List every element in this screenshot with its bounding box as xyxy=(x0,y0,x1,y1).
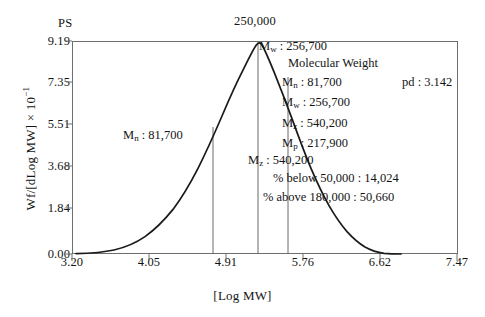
stats-mz-value: : 540,200 xyxy=(297,116,347,130)
annotation-mw-inplot: Mw : 256,700 xyxy=(259,39,327,54)
stats-mz2-subscript: z xyxy=(259,158,263,168)
annotation-mw-symbol: M xyxy=(259,39,270,53)
stats-mw-value: : 256,700 xyxy=(300,95,350,109)
stats-percent-above: % above 180,000 : 50,660 xyxy=(252,189,462,205)
molecular-weight-distribution-chart: PS 250,000 Wf/[dLog MW] × 10−1 9.19 7.35… xyxy=(0,0,485,317)
annotation-mn-subscript: n xyxy=(134,133,139,143)
stats-row-mz: Mz : 540,200 xyxy=(262,115,462,132)
stats-mn-symbol: M xyxy=(282,75,293,89)
stats-percent-below: % below 50,000 : 14,024 xyxy=(262,170,462,186)
annotation-mw-value: : 256,700 xyxy=(277,39,327,53)
stats-row-mw: Mw : 256,700 xyxy=(262,94,462,111)
annotation-mn-value: : 81,700 xyxy=(139,128,183,142)
stats-mn-value: : 81,700 xyxy=(298,75,342,89)
stats-mp-value: : 217,900 xyxy=(298,136,348,150)
stats-pd: pd : 3.142 xyxy=(402,74,452,90)
annotation-mn-inplot: Mn : 81,700 xyxy=(123,128,183,143)
annotation-mw-subscript: w xyxy=(270,44,277,54)
stats-row-mp: Mp : 217,900 xyxy=(262,135,462,152)
stats-mz-symbol: M xyxy=(282,116,293,130)
stats-heading: Molecular Weight xyxy=(262,55,462,71)
stats-mp-symbol: M xyxy=(282,136,293,150)
statistics-block: Molecular Weight Mn : 81,700pd : 3.142 M… xyxy=(262,55,462,206)
stats-mp-subscript: p xyxy=(293,141,298,151)
stats-mz2-value: : 540,200 xyxy=(263,153,313,167)
stats-mn-subscript: n xyxy=(293,80,298,90)
stats-row-mz-2: Mz : 540,200 xyxy=(248,152,462,169)
stats-mw-subscript: w xyxy=(293,100,300,110)
stats-mz2-symbol: M xyxy=(248,153,259,167)
stats-row-mn: Mn : 81,700pd : 3.142 xyxy=(262,74,462,91)
stats-mw-symbol: M xyxy=(282,95,293,109)
annotation-mn-symbol: M xyxy=(123,128,134,142)
stats-mz-subscript: z xyxy=(293,121,297,131)
